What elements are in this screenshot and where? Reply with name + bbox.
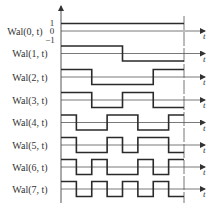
t-axis-label: t	[203, 54, 206, 64]
t-axis-label: t	[203, 189, 206, 199]
walsh-row-3: Wal(3, t)t	[12, 93, 206, 111]
walsh-row-2: Wal(2, t)t	[12, 70, 206, 88]
waveform-rows: Wal(0, t)tWal(1, t)tWal(2, t)tWal(3, t)t…	[7, 24, 206, 200]
row-label: Wal(6, t)	[12, 162, 47, 174]
t-axis-label: t	[203, 123, 206, 133]
row-label: Wal(4, t)	[12, 117, 47, 129]
walsh-row-6: Wal(6, t)t	[12, 160, 206, 178]
t-axis-label: t	[203, 145, 206, 155]
tick-label-minus-1: −1	[45, 35, 55, 45]
t-axis-label: t	[203, 167, 206, 177]
walsh-row-0: Wal(0, t)t	[7, 24, 206, 42]
walsh-row-5: Wal(5, t)t	[12, 138, 206, 156]
walsh-row-4: Wal(4, t)t	[12, 115, 206, 133]
row-label: Wal(1, t)	[12, 48, 47, 60]
row-label: Wal(0, t)	[7, 26, 42, 38]
row-label: Wal(3, t)	[12, 95, 47, 107]
row-label: Wal(2, t)	[12, 72, 47, 84]
t-axis-label: t	[203, 100, 206, 110]
row-label: Wal(5, t)	[12, 140, 47, 152]
t-axis-label: t	[203, 77, 206, 87]
t-axis-label: t	[203, 31, 206, 41]
walsh-row-1: Wal(1, t)t	[12, 46, 206, 64]
row-label: Wal(7, t)	[12, 184, 47, 196]
walsh-functions-diagram: 1 0 −1 Wal(0, t)tWal(1, t)tWal(2, t)tWal…	[0, 0, 211, 209]
walsh-row-7: Wal(7, t)t	[12, 182, 206, 200]
